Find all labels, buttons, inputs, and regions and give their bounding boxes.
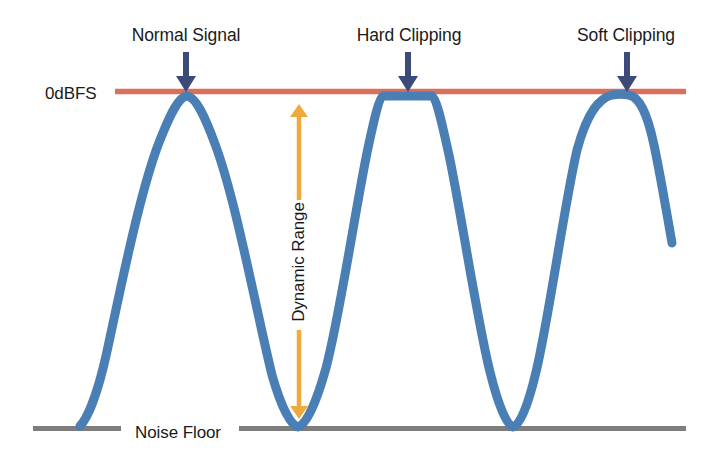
callout-arrow-soft-clipping xyxy=(617,52,637,92)
dynamic-range-label: Dynamic Range xyxy=(289,202,309,322)
zero-dbfs-label: 0dBFS xyxy=(45,84,96,104)
callout-arrow-hard-clipping xyxy=(398,52,418,92)
waveform-canvas xyxy=(0,0,721,466)
noise-floor-label: Noise Floor xyxy=(135,423,221,443)
callout-label-normal-signal: Normal Signal xyxy=(132,27,241,45)
waveform-path xyxy=(80,94,672,427)
callout-label-soft-clipping: Soft Clipping xyxy=(577,27,675,45)
dynamic-range-diagram: Normal Signal Hard Clipping Soft Clippin… xyxy=(0,0,721,466)
callout-arrow-normal-signal xyxy=(176,52,196,92)
callout-label-hard-clipping: Hard Clipping xyxy=(357,27,462,45)
